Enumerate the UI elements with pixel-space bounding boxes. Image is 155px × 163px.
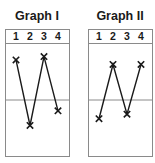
graph-2-column-label: 1 [96, 30, 102, 42]
graph-1-line [16, 57, 58, 126]
graph-2-column-label: 3 [124, 30, 130, 42]
graph-1-frame [6, 30, 70, 157]
graphs-canvas: 12341234 [0, 0, 155, 163]
graph-2-line [99, 64, 141, 118]
graph-2-column-label: 2 [110, 30, 116, 42]
graph-1-column-label: 2 [27, 30, 33, 42]
graph-1-column-label: 3 [41, 30, 47, 42]
graph-1-column-label: 1 [13, 30, 19, 42]
graph-2-column-label: 4 [138, 30, 144, 42]
graph-1-column-label: 4 [55, 30, 61, 42]
